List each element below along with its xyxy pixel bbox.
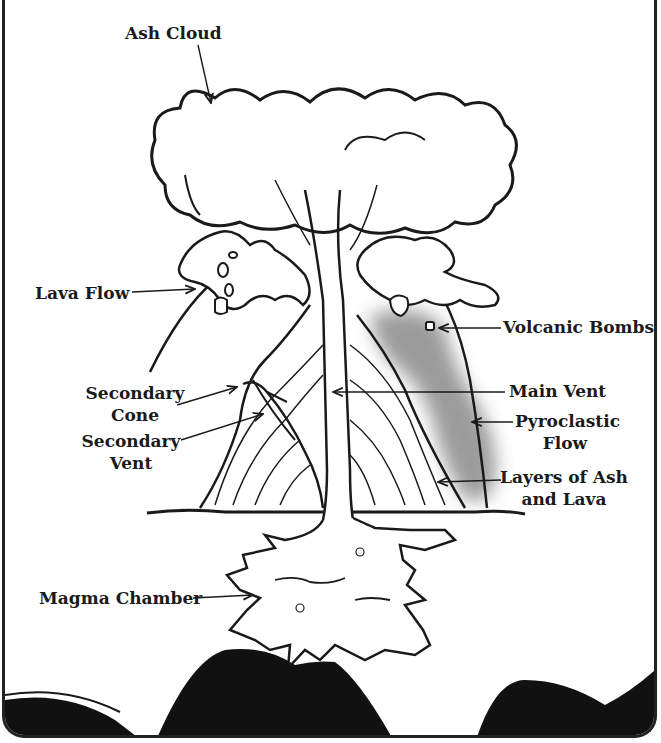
label-pyroclastic-flow: Pyroclastic Flow	[515, 410, 615, 454]
label-secondary-cone: Secondary Cone	[85, 382, 185, 426]
label-lava-flow: Lava Flow	[35, 282, 129, 304]
label-layers-of-ash-and-lava: Layers of Ash and Lava	[499, 466, 629, 510]
pyroclastic-flow-shading	[370, 310, 496, 501]
ground-wave-decoration	[5, 649, 657, 738]
volcanic-bomb-small	[426, 322, 434, 330]
volcano-illustration	[5, 0, 657, 738]
magma-chamber-shape	[227, 518, 455, 668]
label-ash-cloud: Ash Cloud	[125, 22, 222, 44]
label-main-vent: Main Vent	[509, 380, 606, 402]
label-volcanic-bombs: Volcanic Bombs	[503, 316, 654, 338]
volcanic-bomb-left	[215, 298, 227, 315]
secondary-cone-leader	[177, 387, 237, 405]
diagram-frame: Ash Cloud Lava Flow Volcanic Bombs Secon…	[2, 0, 657, 738]
lava-flow-leader	[132, 289, 195, 292]
ash-cloud-shape	[152, 89, 517, 233]
label-secondary-vent: Secondary Vent	[81, 430, 181, 474]
label-magma-chamber: Magma Chamber	[39, 587, 202, 609]
